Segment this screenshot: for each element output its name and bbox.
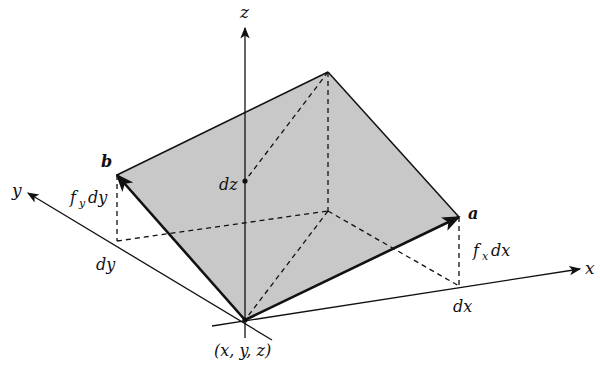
fx-dx-label: f x dx — [472, 241, 510, 263]
diagram-svg: z y x b a dz dy dx f y dy f x dx (x, y, … — [0, 0, 600, 375]
svg-text:y: y — [78, 197, 86, 210]
y-axis-label: y — [11, 180, 22, 200]
dz-point — [242, 178, 247, 183]
origin-point — [242, 317, 247, 322]
dx-label: dx — [453, 297, 472, 316]
svg-text:dy: dy — [88, 188, 108, 207]
vector-b-label: b — [101, 152, 112, 171]
origin-label: (x, y, z) — [214, 341, 271, 360]
fy-dy-label: f y dy — [69, 188, 108, 210]
z-axis-label: z — [239, 2, 250, 22]
svg-text:x: x — [482, 250, 489, 263]
dy-label: dy — [96, 255, 116, 274]
diagram-canvas: z y x b a dz dy dx f y dy f x dx (x, y, … — [0, 0, 600, 375]
vector-a-label: a — [468, 204, 478, 223]
dz-label: dz — [219, 175, 238, 194]
tangent-plane — [117, 72, 459, 320]
svg-text:dx: dx — [491, 241, 510, 260]
svg-text:f: f — [472, 241, 482, 260]
x-axis-label: x — [585, 258, 595, 278]
svg-text:f: f — [69, 188, 79, 207]
